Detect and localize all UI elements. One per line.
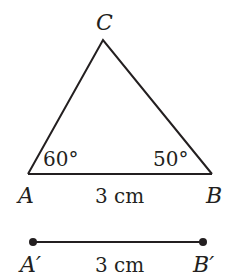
vertex-a-label: A [16,183,34,208]
triangle-construction-diagram: C 60° 50° A 3 cm B A′ 3 cm B′ [0,0,232,277]
point-b-prime-label: B′ [192,252,214,277]
angle-b-label: 50° [153,147,188,171]
segment-a-prime-b-prime [29,238,207,246]
vertex-b-label: B [205,183,222,208]
side-ab-length-label: 3 cm [95,184,144,208]
vertex-c-label: C [96,10,113,35]
angle-a-label: 60° [43,147,78,171]
segment-length-label: 3 cm [95,253,144,277]
point-a-prime [29,238,37,246]
point-b-prime [199,238,207,246]
point-a-prime-label: A′ [18,252,41,277]
